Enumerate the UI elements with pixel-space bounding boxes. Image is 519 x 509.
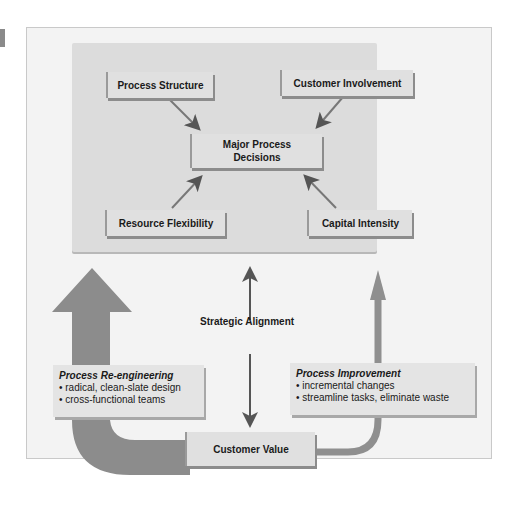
arrow-involvement [318,97,343,126]
improvement-bullet: • incremental changes [296,380,469,392]
arrow-capital [306,177,336,208]
node-capital-intensity: Capital Intensity [307,210,412,236]
reengineering-box: Process Re-engineering • radical, clean-… [53,365,204,417]
node-process-structure: Process Structure [106,72,213,98]
arrow-structure [170,100,198,128]
reengineering-bullet: • cross-functional teams [59,394,198,406]
improvement-box: Process Improvement • incremental change… [290,363,475,415]
node-customer-involvement: Customer Involvement [280,70,413,96]
node-major-decisions: Major Process Decisions [190,134,322,168]
node-resource-flexibility: Resource Flexibility [105,210,225,236]
improvement-bullet: • streamline tasks, eliminate waste [296,392,469,404]
strategic-alignment-label: Strategic Alignment [200,316,294,327]
arrow-flexibility [172,178,200,208]
reengineering-title: Process Re-engineering [59,370,198,382]
improvement-title: Process Improvement [296,368,469,380]
reengineering-bullet: • radical, clean-slate design [59,382,198,394]
node-customer-value: Customer Value [185,432,315,466]
